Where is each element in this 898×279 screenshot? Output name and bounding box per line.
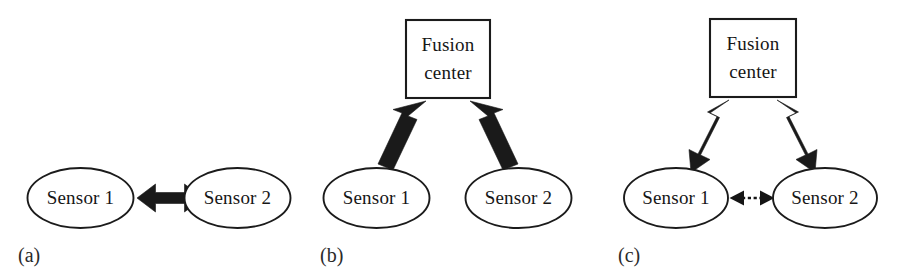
node-b-sensor-1: Sensor 1 — [324, 168, 430, 228]
single-headed-arrow — [470, 101, 518, 170]
double-headed-arrow — [777, 100, 817, 173]
node-label: Sensor 2 — [485, 187, 553, 208]
node-label: Sensor 2 — [791, 187, 859, 208]
node-c-sensor-1: Sensor 1 — [624, 168, 728, 228]
panel-c: Fusion center Sensor 1 Sensor 2 (c) — [618, 19, 877, 267]
panel-caption-a: (a) — [18, 244, 40, 267]
link-b-sensor2-to-fusion — [470, 101, 518, 170]
link-c-sensor1-sensor2 — [730, 191, 775, 206]
fusion-center-box — [710, 19, 796, 97]
panel-caption-c: (c) — [618, 244, 640, 267]
panel-caption-b: (b) — [320, 244, 343, 267]
single-headed-arrow — [378, 101, 426, 170]
node-label: Sensor 1 — [343, 187, 411, 208]
link-b-sensor1-to-fusion — [378, 101, 426, 170]
node-label: Sensor 1 — [47, 187, 115, 208]
node-label: Sensor 1 — [642, 187, 710, 208]
node-b-fusion-center: Fusion center — [406, 20, 490, 98]
node-label: Sensor 2 — [204, 187, 272, 208]
node-b-sensor-2: Sensor 2 — [466, 168, 572, 228]
node-a-sensor-1: Sensor 1 — [28, 168, 134, 228]
node-c-fusion-center: Fusion center — [710, 19, 796, 97]
fusion-center-box — [406, 20, 490, 98]
link-c-sensor2-fusion — [777, 100, 817, 173]
fusion-center-label-line-2: center — [729, 61, 777, 82]
panel-b: Fusion center Sensor 1 Sensor 2 (b) — [320, 20, 572, 267]
link-c-sensor1-fusion — [689, 100, 729, 173]
double-headed-arrow — [689, 100, 729, 173]
node-c-sensor-2: Sensor 2 — [773, 168, 877, 228]
fusion-center-label-line-1: Fusion — [422, 34, 475, 55]
sensor-network-topology-figure: Sensor 1 Sensor 2 (a) Fusion center — [0, 0, 898, 279]
panel-a: Sensor 1 Sensor 2 (a) — [18, 168, 291, 267]
dashed-link-head-left — [730, 191, 745, 206]
node-a-sensor-2: Sensor 2 — [185, 168, 291, 228]
fusion-center-label-line-1: Fusion — [727, 33, 780, 54]
fusion-center-label-line-2: center — [424, 62, 472, 83]
